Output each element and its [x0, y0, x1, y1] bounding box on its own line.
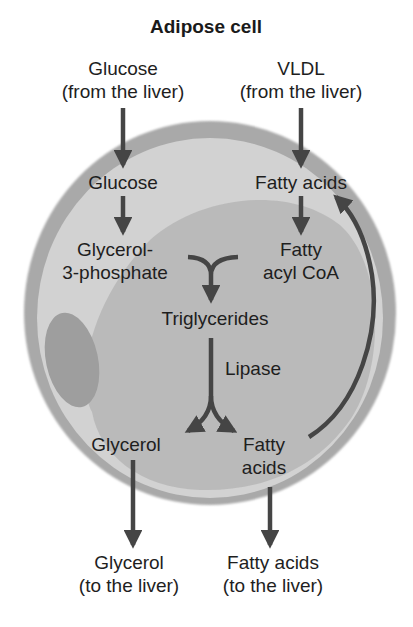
output-fatty-acids-dest: (to the liver): [223, 574, 323, 597]
adipose-cell-diagram: Adipose cell Glucose (from the liver) VL…: [0, 0, 413, 627]
node-g3p-line2: 3-phosphate: [62, 261, 168, 284]
diagram-title: Adipose cell: [150, 15, 262, 38]
input-glucose-source: (from the liver): [62, 80, 184, 103]
node-g3p-line1: Glycerol-: [62, 238, 168, 261]
node-triglycerides: Triglycerides: [162, 307, 269, 330]
input-vldl-name: VLDL: [240, 57, 362, 80]
node-glucose: Glucose: [88, 171, 158, 194]
input-glucose-name: Glucose: [62, 57, 184, 80]
enzyme-lipase: Lipase: [225, 357, 281, 380]
node-fatty-acids-bottom: Fatty acids: [242, 433, 286, 479]
input-vldl-label: VLDL (from the liver): [240, 57, 362, 103]
node-acylcoa-line2: acyl CoA: [263, 261, 339, 284]
node-acylcoa-line1: Fatty: [263, 238, 339, 261]
node-fatty-acids-top: Fatty acids: [255, 171, 347, 194]
node-fa-bottom-line1: Fatty: [242, 433, 286, 456]
output-glycerol-name: Glycerol: [79, 551, 179, 574]
input-vldl-source: (from the liver): [240, 80, 362, 103]
output-fatty-acids-label: Fatty acids (to the liver): [223, 551, 323, 597]
output-glycerol-dest: (to the liver): [79, 574, 179, 597]
output-glycerol-label: Glycerol (to the liver): [79, 551, 179, 597]
input-glucose-label: Glucose (from the liver): [62, 57, 184, 103]
node-glycerol-3-phosphate: Glycerol- 3-phosphate: [62, 238, 168, 284]
output-fatty-acids-name: Fatty acids: [223, 551, 323, 574]
node-fa-bottom-line2: acids: [242, 456, 286, 479]
node-glycerol: Glycerol: [91, 433, 161, 456]
node-fatty-acyl-coa: Fatty acyl CoA: [263, 238, 339, 284]
